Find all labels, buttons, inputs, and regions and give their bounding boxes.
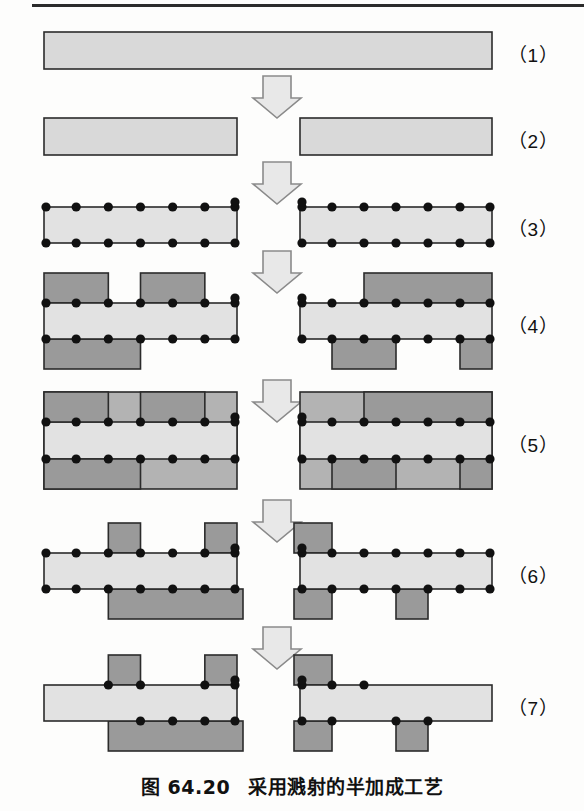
step6-seed-dot-right-bottom xyxy=(455,584,464,593)
step4-seed-dot-right-bottom xyxy=(485,334,494,343)
step-label-1: （1） xyxy=(508,40,558,67)
step6-seed-dot-left-top xyxy=(104,548,113,557)
step-label-2: （2） xyxy=(508,126,558,153)
step5-seed-dot-right-bottom xyxy=(455,454,464,463)
step1-substrate-left xyxy=(44,32,492,69)
step4-seed-dot-left-bottom xyxy=(72,334,81,343)
figure-caption-number: 图 64.20 xyxy=(141,776,230,798)
step6-plate-bottom-left xyxy=(108,589,243,619)
step7-substrate-right xyxy=(300,685,492,721)
step5-resist-bottom-right-2 xyxy=(460,459,492,489)
step4-seed-dot-right-bottom xyxy=(359,334,368,343)
step3-seed-dot-right-bottom xyxy=(359,238,368,247)
step4-seed-dot-right-top xyxy=(455,298,464,307)
step4-seed-dot-right-top xyxy=(359,298,368,307)
step6-plate-top-left-1 xyxy=(108,523,140,553)
step5-seed-dot-left-bottom xyxy=(200,454,209,463)
step7-seed-dot-right-bottom xyxy=(391,716,400,725)
step4-seed-dot-left-double xyxy=(230,293,239,302)
step5-seed-dot-left-bottom xyxy=(41,454,50,463)
step3-seed-dot-right-top xyxy=(391,202,400,211)
step5-seed-dot-right-top xyxy=(485,417,494,426)
step2-substrate-right xyxy=(300,118,492,155)
step4-seed-dot-left-top xyxy=(136,298,145,307)
step5-substrate-left xyxy=(44,422,237,459)
step6-seed-dot-right-bottom xyxy=(485,584,494,593)
step4-seed-dot-right-top xyxy=(423,298,432,307)
figure-caption-text: 采用溅射的半加成工艺 xyxy=(248,776,443,798)
process-arrow-4 xyxy=(253,380,301,422)
step3-seed-dot-left-top xyxy=(104,202,113,211)
step6-seed-dot-left-double xyxy=(230,543,239,552)
step-label-3: （3） xyxy=(508,214,558,241)
step4-seed-dot-left-top xyxy=(72,298,81,307)
step7-seed-dot-left-top xyxy=(104,680,113,689)
step4-seed-dot-left-bottom xyxy=(41,334,50,343)
step6-seed-dot-left-top xyxy=(200,548,209,557)
step3-seed-dot-left-bottom xyxy=(200,238,209,247)
step4-seed-dot-right-top xyxy=(485,298,494,307)
step-label-4: （4） xyxy=(508,311,558,338)
step5-seed-dot-left-bottom xyxy=(72,454,81,463)
step3-seed-dot-right-bottom xyxy=(327,238,336,247)
step7-seed-dot-right-double xyxy=(297,675,306,684)
step5-seed-dot-right-top xyxy=(359,417,368,426)
process-arrow-3 xyxy=(253,251,301,293)
process-diagram xyxy=(0,0,584,811)
step5-seed-dot-left-top xyxy=(168,417,177,426)
step3-seed-dot-left-bottom xyxy=(72,238,81,247)
process-arrow-2 xyxy=(253,162,301,204)
step3-seed-dot-right-top xyxy=(327,202,336,211)
step3-seed-dot-left-bottom xyxy=(168,238,177,247)
step6-seed-dot-right-bottom xyxy=(359,584,368,593)
step6-seed-dot-right-bottom xyxy=(423,584,432,593)
step6-seed-dot-right-bottom xyxy=(297,584,306,593)
step2-substrate-left xyxy=(44,118,237,155)
step7-plate-top-left-1 xyxy=(108,655,140,685)
process-arrow-1 xyxy=(253,76,301,118)
step4-seed-dot-right-double xyxy=(297,293,306,302)
step3-seed-dot-right-bottom xyxy=(297,238,306,247)
step5-resist-bottom-left-1 xyxy=(44,459,141,489)
step4-seed-dot-right-bottom xyxy=(391,334,400,343)
step4-seed-dot-right-top xyxy=(391,298,400,307)
step5-seed-dot-left-bottom xyxy=(168,454,177,463)
step5-seed-dot-left-bottom xyxy=(230,454,239,463)
step6-seed-dot-left-bottom xyxy=(41,584,50,593)
step7-seed-dot-left-top xyxy=(136,680,145,689)
step5-seed-dot-right-bottom xyxy=(423,454,432,463)
step3-seed-dot-right-bottom xyxy=(485,238,494,247)
step6-seed-dot-right-double xyxy=(297,543,306,552)
step5-seed-dot-right-top xyxy=(455,417,464,426)
step4-seed-dot-right-bottom xyxy=(423,334,432,343)
step4-seed-dot-left-bottom xyxy=(168,334,177,343)
step3-seed-dot-left-bottom xyxy=(230,238,239,247)
step4-seed-dot-right-top xyxy=(327,298,336,307)
step5-seed-dot-right-top xyxy=(423,417,432,426)
step6-seed-dot-right-top xyxy=(391,548,400,557)
step3-seed-dot-left-bottom xyxy=(136,238,145,247)
step5-seed-dot-left-top xyxy=(200,417,209,426)
step3-seed-dot-right-double xyxy=(297,197,306,206)
step3-seed-dot-right-top xyxy=(455,202,464,211)
step7-seed-dot-left-bottom xyxy=(136,716,145,725)
step6-seed-dot-right-bottom xyxy=(391,584,400,593)
step5-seed-dot-right-bottom xyxy=(359,454,368,463)
step3-seed-dot-left-bottom xyxy=(104,238,113,247)
step5-seed-dot-left-top xyxy=(72,417,81,426)
step3-seed-dot-left-top xyxy=(41,202,50,211)
step4-seed-dot-right-bottom xyxy=(327,334,336,343)
step6-seed-dot-left-bottom xyxy=(136,584,145,593)
step4-seed-dot-left-top xyxy=(168,298,177,307)
step6-seed-dot-left-bottom xyxy=(72,584,81,593)
step6-substrate-left xyxy=(44,553,237,589)
step7-seed-dot-left-top xyxy=(200,680,209,689)
step4-resist-bottom-left-1 xyxy=(44,339,141,369)
figure-container: （1） （2） （3） （4） （5） （6） （7） 图 64.20采用溅射的… xyxy=(0,0,584,811)
step7-seed-dot-right-top xyxy=(327,680,336,689)
step7-seed-dot-right-bottom xyxy=(327,716,336,725)
step6-seed-dot-left-top xyxy=(72,548,81,557)
step6-seed-dot-right-top xyxy=(455,548,464,557)
step-label-6: （6） xyxy=(508,561,558,588)
step4-seed-dot-left-bottom xyxy=(230,334,239,343)
